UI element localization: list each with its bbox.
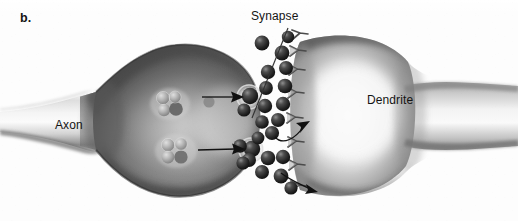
- neurotransmitter: [258, 99, 272, 113]
- vesicle: [162, 151, 175, 164]
- vesicle-cluster-upper-halo: [150, 88, 190, 120]
- neurotransmitter: [279, 61, 293, 75]
- synapse-figure: b. Synapse Axon Dendrite: [0, 0, 518, 221]
- neurotransmitter: [284, 181, 297, 194]
- vesicle: [169, 102, 183, 116]
- dendrite-core-highlight: [304, 63, 400, 163]
- neurotransmitter: [276, 97, 290, 111]
- vesicle: [158, 104, 170, 116]
- neurotransmitter: [278, 79, 293, 94]
- synapse-illustration: [0, 0, 518, 221]
- neurotransmitter: [261, 151, 276, 166]
- neurotransmitter: [282, 31, 294, 43]
- neurotransmitter: [275, 46, 290, 61]
- neurotransmitter: [237, 103, 250, 116]
- neurotransmitter: [236, 156, 249, 169]
- neurotransmitter: [255, 165, 269, 179]
- neurotransmitter: [265, 126, 279, 140]
- synaptic-vesicle-cluster-upper: [150, 88, 190, 120]
- neurotransmitter: [255, 115, 269, 129]
- panel-letter: b.: [20, 12, 31, 25]
- synaptic-vesicle-cluster-lower: [155, 134, 197, 168]
- label-axon: Axon: [55, 119, 83, 132]
- neurotransmitter: [252, 132, 265, 145]
- label-dendrite: Dendrite: [367, 94, 413, 107]
- vesicle-cluster-lower-halo: [155, 134, 197, 168]
- label-synapse: Synapse: [251, 10, 298, 23]
- dendrite-right-join-shading: [394, 57, 426, 173]
- vesicle: [174, 150, 187, 163]
- neurotransmitter: [271, 113, 285, 127]
- vesicle-in-transit: [203, 96, 214, 107]
- neurotransmitter: [255, 36, 270, 51]
- neurotransmitter: [242, 88, 258, 104]
- neurotransmitter: [276, 150, 290, 164]
